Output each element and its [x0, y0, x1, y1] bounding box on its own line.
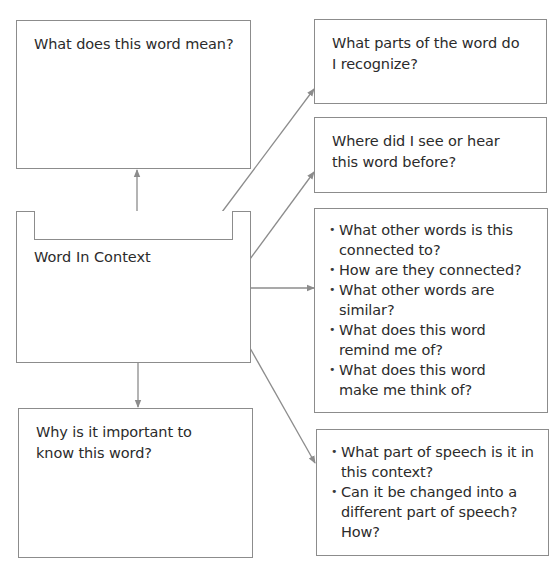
word-in-context-label: Word In Context [34, 247, 151, 267]
list-item: How are they connected? [329, 260, 529, 280]
list-item: What does this word remind me of? [329, 320, 529, 360]
part-of-speech-box[interactable]: What part of speech is it in this contex… [316, 429, 549, 556]
list-item: What does this word make me think of? [329, 360, 529, 400]
meaning-prompt: What does this word mean? [34, 34, 236, 55]
seen-before-prompt: Where did I see or hear this word before… [332, 131, 524, 173]
word-in-context-box[interactable]: Word In Context [16, 211, 251, 363]
seen-before-box[interactable]: Where did I see or hear this word before… [314, 117, 547, 193]
arrow-center-to-seen-before [250, 172, 314, 259]
connections-box[interactable]: What other words is this connected to? H… [314, 208, 548, 413]
importance-prompt: Why is it important to know this word? [36, 422, 222, 464]
meaning-box[interactable]: What does this word mean? [16, 20, 251, 169]
importance-box[interactable]: Why is it important to know this word? [18, 408, 253, 558]
list-item: Can it be changed into a different part … [331, 482, 534, 542]
word-parts-prompt: What parts of the word do I recognize? [332, 33, 524, 75]
part-of-speech-bullet-list: What part of speech is it in this contex… [331, 442, 534, 542]
list-item: What other words is this connected to? [329, 220, 529, 260]
word-entry-slot[interactable] [34, 211, 233, 240]
connections-bullet-list: What other words is this connected to? H… [329, 220, 529, 400]
list-item: What other words are similar? [329, 280, 529, 320]
word-parts-box[interactable]: What parts of the word do I recognize? [314, 19, 547, 104]
list-item: What part of speech is it in this contex… [331, 442, 534, 482]
arrow-center-to-part-of-speech [250, 348, 315, 463]
